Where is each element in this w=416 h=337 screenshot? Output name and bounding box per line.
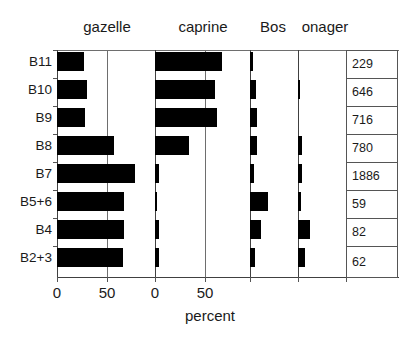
bar-onager-b5-6 (298, 192, 301, 211)
bar-bos-b11 (250, 52, 253, 71)
counts-cell-b11: 229 (347, 51, 397, 79)
row-label-b10: B10 (0, 82, 52, 98)
bar-gazelle-b11 (57, 52, 84, 71)
bar-bos-b10 (250, 80, 256, 99)
counts-table: 229 646 716 780 1886 59 82 62 (346, 50, 398, 278)
bar-onager-b10 (298, 80, 300, 99)
bar-caprine-b7 (155, 164, 159, 183)
bar-onager-b4 (298, 220, 310, 239)
tick-gazelle-50 (107, 277, 108, 282)
counts-cell-b4: 82 (347, 219, 397, 247)
bar-bos-b7 (250, 164, 254, 183)
row-label-b9: B9 (0, 110, 52, 126)
counts-cell-b9: 716 (347, 107, 397, 135)
tick-label-caprine-0: 0 (141, 284, 169, 302)
bar-caprine-b8 (155, 136, 189, 155)
tick-label-gazelle-0: 0 (43, 284, 71, 302)
bar-gazelle-b5-6 (57, 192, 124, 211)
panel-header-bos: Bos (249, 18, 297, 36)
bar-onager-b8 (298, 136, 302, 155)
bar-bos-b2-3 (250, 248, 255, 267)
bar-caprine-b10 (155, 80, 215, 99)
counts-cell-b2-3: 62 (347, 247, 397, 277)
bar-gazelle-b7 (57, 164, 135, 183)
panel-header-caprine: caprine (155, 18, 251, 36)
counts-cell-b10: 646 (347, 79, 397, 107)
tick-onager-0 (298, 277, 299, 282)
bar-gazelle-b10 (57, 80, 87, 99)
bar-caprine-b4 (155, 220, 159, 239)
bar-bos-b8 (250, 136, 257, 155)
row-label-b5-6: B5+6 (0, 194, 52, 210)
panel-header-gazelle: gazelle (57, 18, 157, 36)
row-label-b7: B7 (0, 166, 52, 182)
tick-label-gazelle-50: 50 (91, 284, 123, 302)
bar-gazelle-b2-3 (57, 248, 123, 267)
bar-onager-b7 (298, 164, 302, 183)
tick-bos-0 (250, 277, 251, 282)
chart-figure: gazelle caprine Bos onager B11 B10 B9 B8… (0, 0, 416, 337)
counts-cell-b7: 1886 (347, 163, 397, 191)
bar-caprine-b5-6 (155, 192, 157, 211)
tick-label-caprine-50: 50 (189, 284, 221, 302)
counts-cell-b8: 780 (347, 135, 397, 163)
bar-caprine-b2-3 (155, 248, 159, 267)
bar-onager-b2-3 (298, 248, 305, 267)
bar-gazelle-b8 (57, 136, 114, 155)
bar-caprine-b11 (155, 52, 222, 71)
bar-caprine-b9 (155, 108, 217, 127)
bar-bos-b4 (250, 220, 261, 239)
tick-caprine-0 (155, 277, 156, 282)
row-label-b8: B8 (0, 138, 52, 154)
bar-bos-b9 (250, 108, 257, 127)
bar-gazelle-b4 (57, 220, 124, 239)
x-axis-title: percent (150, 307, 270, 325)
counts-cell-b5-6: 59 (347, 191, 397, 219)
tick-caprine-50 (205, 277, 206, 282)
row-label-b4: B4 (0, 222, 52, 238)
panel-header-onager: onager (294, 18, 356, 36)
row-label-b2-3: B2+3 (0, 250, 52, 266)
row-label-b11: B11 (0, 54, 52, 70)
tick-gazelle-0 (57, 277, 58, 282)
bar-gazelle-b9 (57, 108, 85, 127)
bar-bos-b5-6 (250, 192, 268, 211)
